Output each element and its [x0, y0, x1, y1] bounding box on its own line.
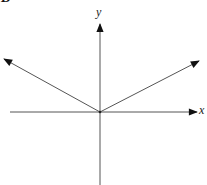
axes-canvas: [0, 0, 207, 185]
panel-label: B: [1, 0, 10, 5]
vector-diagram: B y x: [0, 0, 207, 185]
origin-point: [99, 111, 102, 114]
left-vector: [4, 59, 100, 112]
y-axis-label: y: [96, 6, 101, 18]
x-axis-label: x: [199, 104, 204, 116]
right-vector: [100, 61, 199, 112]
